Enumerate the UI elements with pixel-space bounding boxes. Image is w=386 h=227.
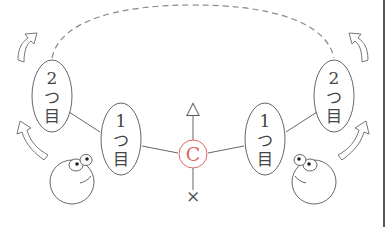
right-second-kana: つ <box>326 88 342 107</box>
left-first-node: 1 つ 目 <box>101 103 141 175</box>
center-node: C <box>179 140 207 168</box>
right-second-node: 2 つ 目 <box>314 60 354 132</box>
diagram-canvas: 2 つ 目 1 つ 目 1 つ 目 2 つ 目 C △ × <box>0 0 386 227</box>
triangle-symbol: △ <box>186 97 200 118</box>
left-first-number: 1 <box>116 111 127 131</box>
left-first-kanji: 目 <box>113 150 129 169</box>
left-second-kana: つ <box>44 88 60 107</box>
right-border <box>383 0 385 227</box>
right-first-kana: つ <box>257 131 273 150</box>
dashed-arc <box>52 5 334 58</box>
right-first-number: 1 <box>260 111 271 131</box>
center-label: C <box>186 143 201 165</box>
right-second-number: 2 <box>329 68 340 88</box>
right-first-kanji: 目 <box>257 150 273 169</box>
left-first-kana: つ <box>113 131 129 150</box>
left-second-number: 2 <box>47 68 58 88</box>
left-character-face <box>50 155 94 205</box>
right-first-node: 1 つ 目 <box>245 103 285 175</box>
left-second-kanji: 目 <box>44 107 60 126</box>
left-second-node: 2 つ 目 <box>32 60 72 132</box>
cross-symbol: × <box>186 186 200 206</box>
right-character-face <box>292 155 336 205</box>
right-second-kanji: 目 <box>326 107 342 126</box>
